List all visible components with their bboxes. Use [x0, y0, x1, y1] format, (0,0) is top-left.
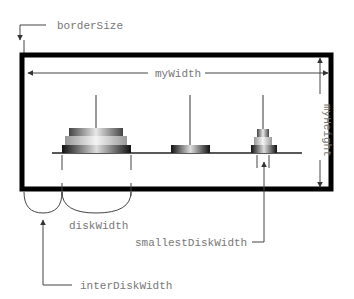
disk-medium	[65, 136, 127, 145]
my-width-label: myWidth	[155, 68, 201, 80]
towers-of-hanoi-dimension-diagram: borderSize myWidth myHeight	[0, 0, 354, 299]
disk-mid	[254, 137, 272, 145]
disk-large	[62, 145, 131, 153]
border-size-arrow	[20, 25, 46, 40]
disk-width-label: diskWidth	[69, 220, 128, 232]
border-size-label: borderSize	[57, 20, 123, 32]
peg-1	[62, 95, 131, 153]
border-size-annotation: borderSize	[20, 20, 123, 55]
smallest-disk-width-label: smallestDiskWidth	[135, 237, 247, 249]
inter-disk-width-label: interDiskWidth	[80, 280, 172, 292]
smallest-disk-width-annotation: smallestDiskWidth	[135, 155, 269, 249]
disk-width-annotation: diskWidth	[62, 155, 131, 232]
inter-disk-width-brace	[24, 192, 62, 213]
disk-width-brace	[62, 192, 131, 213]
disk-smallest	[257, 129, 269, 137]
disk-single	[171, 145, 210, 153]
peg-3	[251, 95, 277, 153]
my-height-label: myHeight	[321, 104, 333, 157]
disk-small	[69, 128, 123, 136]
disk-base	[251, 145, 277, 153]
peg-2	[171, 95, 210, 153]
my-width-annotation: myWidth	[28, 68, 328, 80]
